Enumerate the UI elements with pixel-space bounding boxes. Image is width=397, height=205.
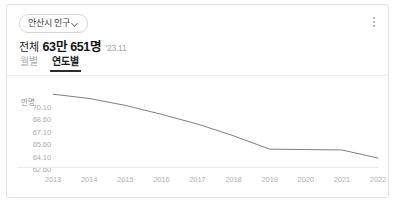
y-axis-tick: 67.10 (17, 127, 51, 136)
x-axis-tick: 2021 (334, 175, 350, 184)
x-axis-tick: 2013 (45, 175, 61, 184)
y-axis-tick: 62.60 (17, 165, 51, 174)
region-selector-button[interactable]: 안산시 인구 (19, 14, 88, 33)
summary-lead-label: 전체 (19, 38, 38, 54)
summary-period: '23.11 (105, 43, 126, 53)
tab-yearly[interactable]: 연도별 (50, 57, 80, 72)
kebab-dot (373, 21, 375, 23)
x-axis-tick: 2020 (298, 175, 314, 184)
population-line-chart: 만명 70.1068.6067.1065.6064.1062.60 201320… (7, 76, 388, 197)
kebab-menu-icon[interactable] (368, 14, 380, 30)
x-axis-baseline (17, 167, 378, 168)
x-axis-tick-labels: 2013201420152016201720182019202020212022 (53, 175, 378, 187)
y-axis-tick: 65.60 (17, 140, 51, 149)
period-tabs: 월별 연도별 (18, 57, 81, 72)
x-axis-tick: 2015 (117, 175, 133, 184)
x-axis-tick: 2019 (262, 175, 278, 184)
chart-plot-area (53, 94, 378, 167)
region-selector-label: 안산시 인구 (28, 19, 69, 28)
x-axis-tick: 2018 (225, 175, 241, 184)
x-axis-tick: 2016 (153, 175, 169, 184)
chart-svg (53, 94, 378, 167)
series-line (53, 94, 378, 158)
y-axis-tick: 64.10 (17, 152, 51, 161)
summary-stat: 전체 63만 651명 '23.11 (19, 36, 127, 55)
population-card: 안산시 인구 전체 63만 651명 '23.11 월별 연도별 만명 70.1… (6, 4, 389, 198)
x-axis-tick: 2014 (81, 175, 97, 184)
x-axis-tick: 2022 (370, 175, 386, 184)
y-axis-tick: 68.60 (17, 115, 51, 124)
tab-monthly[interactable]: 월별 (18, 57, 39, 72)
chevron-down-icon (72, 20, 79, 27)
summary-value: 63만 651명 (42, 36, 101, 55)
tab-monthly-label: 월별 (20, 56, 37, 67)
y-axis-tick: 70.10 (17, 102, 51, 111)
tab-yearly-label: 연도별 (52, 56, 78, 67)
kebab-dot (373, 25, 375, 27)
kebab-dot (373, 17, 375, 19)
x-axis-tick: 2017 (189, 175, 205, 184)
